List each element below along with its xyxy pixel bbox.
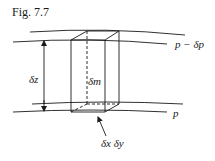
upper-pressure-surface [13, 30, 185, 44]
upper-surface-label: p − δp [174, 38, 205, 50]
base-area-pointer-arrow [98, 117, 106, 136]
upper-surface-front-curve [13, 40, 167, 44]
height-label: δz [29, 73, 39, 85]
lower-surface-label: p [172, 107, 179, 119]
air-column-diagram: δz δm p − δp p δx δy [0, 0, 215, 161]
air-column-box [71, 31, 119, 112]
mass-label: δm [88, 75, 101, 87]
base-area-label: δx δy [101, 137, 124, 149]
lower-pressure-surface [13, 102, 183, 112]
